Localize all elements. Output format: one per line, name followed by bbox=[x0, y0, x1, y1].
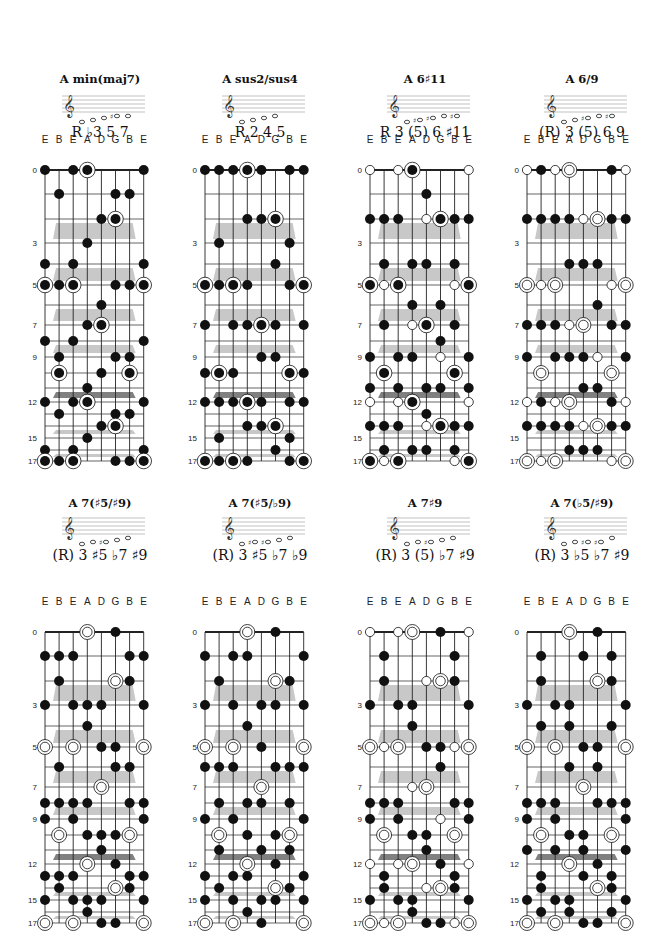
note-dot bbox=[407, 895, 417, 905]
fret-number: 7 bbox=[515, 783, 520, 792]
note-dot bbox=[536, 651, 546, 661]
note-dot bbox=[607, 907, 617, 917]
note-dot bbox=[285, 676, 295, 686]
fret-marker-band bbox=[213, 807, 296, 815]
note-dot bbox=[379, 798, 389, 808]
note-dot bbox=[256, 918, 266, 928]
note-dot bbox=[40, 895, 50, 905]
note-dot bbox=[200, 871, 210, 881]
fret-marker-band bbox=[53, 916, 136, 919]
note-dot bbox=[256, 742, 266, 752]
optional-note-circle bbox=[380, 918, 389, 927]
fret-number: 5 bbox=[193, 743, 198, 752]
note-dot bbox=[54, 651, 64, 661]
fret-marker-band bbox=[53, 730, 136, 743]
fret-number: 0 bbox=[33, 628, 38, 637]
fretboard: EBEADGBE03579121517 bbox=[353, 596, 476, 931]
string-name: E bbox=[140, 596, 147, 607]
string-name: A bbox=[244, 596, 251, 607]
root-note-marker bbox=[282, 828, 297, 843]
note-head bbox=[90, 540, 95, 544]
note-dot bbox=[564, 830, 574, 840]
note-dot bbox=[365, 895, 375, 905]
note-dot bbox=[593, 742, 603, 752]
string-name: E bbox=[552, 596, 559, 607]
note-head bbox=[252, 540, 257, 544]
root-note-marker bbox=[363, 740, 378, 755]
note-dot bbox=[607, 721, 617, 731]
note-dot bbox=[96, 918, 106, 928]
note-dot bbox=[621, 814, 631, 824]
note-dot bbox=[407, 721, 417, 731]
note-dot bbox=[271, 700, 281, 710]
root-note-marker bbox=[461, 916, 476, 931]
note-dot bbox=[82, 700, 92, 710]
optional-note-circle bbox=[394, 859, 403, 868]
note-dot bbox=[564, 721, 574, 731]
note-dot bbox=[111, 859, 121, 869]
note-dot bbox=[68, 651, 78, 661]
optional-note-circle bbox=[450, 918, 459, 927]
note-dot bbox=[242, 871, 252, 881]
root-note-marker bbox=[122, 828, 137, 843]
optional-note-circle bbox=[422, 883, 431, 892]
note-dot bbox=[536, 871, 546, 881]
note-dot bbox=[450, 676, 460, 686]
note-dot bbox=[68, 814, 78, 824]
string-name: E bbox=[300, 596, 307, 607]
note-dot bbox=[271, 627, 281, 637]
fret-number: 9 bbox=[358, 815, 363, 824]
note-dot bbox=[82, 830, 92, 840]
fret-number: 12 bbox=[28, 860, 37, 869]
root-note-marker bbox=[534, 828, 549, 843]
note-dot bbox=[436, 742, 446, 752]
root-note-marker bbox=[562, 857, 577, 872]
note-dot bbox=[464, 895, 474, 905]
note-dot bbox=[607, 798, 617, 808]
note-dot bbox=[200, 814, 210, 824]
note-dot bbox=[82, 721, 92, 731]
note-dot bbox=[68, 871, 78, 881]
root-note-marker bbox=[226, 740, 241, 755]
note-dot bbox=[365, 814, 375, 824]
note-dot bbox=[82, 798, 92, 808]
note-dot bbox=[242, 830, 252, 840]
fret-number: 17 bbox=[353, 919, 362, 928]
fret-marker-band bbox=[535, 685, 618, 701]
root-note-marker bbox=[461, 740, 476, 755]
fret-number: 0 bbox=[193, 628, 198, 637]
note-dot bbox=[379, 871, 389, 881]
root-note-marker bbox=[52, 828, 67, 843]
note-dot bbox=[111, 918, 121, 928]
fret-marker-band bbox=[213, 892, 296, 896]
fret-number: 3 bbox=[515, 701, 520, 710]
note-dot bbox=[139, 651, 149, 661]
note-dot bbox=[564, 700, 574, 710]
note-dot bbox=[82, 907, 92, 917]
string-name: B bbox=[126, 596, 133, 607]
svg-text:♯: ♯ bbox=[99, 539, 102, 547]
optional-note-circle bbox=[450, 742, 459, 751]
fret-number: 3 bbox=[358, 701, 363, 710]
note-dot bbox=[214, 845, 224, 855]
string-name: B bbox=[56, 596, 63, 607]
note-dot bbox=[536, 676, 546, 686]
root-note-marker bbox=[108, 881, 123, 896]
note-dot bbox=[68, 700, 78, 710]
note-dot bbox=[271, 895, 281, 905]
root-note-marker bbox=[377, 828, 392, 843]
note-dot bbox=[436, 859, 446, 869]
root-note-marker bbox=[520, 740, 535, 755]
note-dot bbox=[578, 918, 588, 928]
note-dot bbox=[54, 762, 64, 772]
fret-number: 17 bbox=[28, 919, 37, 928]
root-note-marker bbox=[391, 740, 406, 755]
note-dot bbox=[421, 742, 431, 752]
root-note-marker bbox=[405, 857, 420, 872]
note-dot bbox=[242, 907, 252, 917]
note-dot bbox=[54, 883, 64, 893]
note-head bbox=[404, 542, 409, 546]
string-name: E bbox=[465, 596, 472, 607]
note-dot bbox=[536, 798, 546, 808]
treble-clef-icon: 𝄞 bbox=[545, 515, 557, 540]
